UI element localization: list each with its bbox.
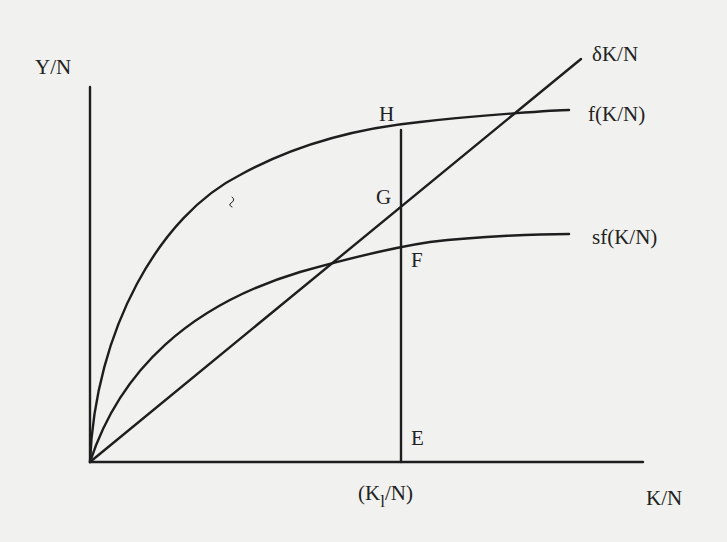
k1-label-open: (K [358,481,380,505]
point-h-label: H [379,104,394,125]
k1-label-close: /N) [385,481,413,505]
savings-curve [90,234,569,462]
solow-diagram [0,0,727,542]
point-g-label: G [376,187,391,208]
y-axis-label: Y/N [35,57,71,78]
stray-mark [230,197,234,207]
depreciation-line [90,59,581,462]
production-label: f(K/N) [588,104,645,125]
k1-label-subscript: l [380,492,385,511]
point-f-label: F [411,250,423,271]
production-curve [90,110,569,462]
x-axis-label: K/N [646,488,682,509]
depreciation-label: δK/N [592,44,638,65]
k1-label: (Kl/N) [358,483,413,504]
point-e-label: E [411,428,424,449]
savings-label: sf(K/N) [592,227,657,248]
